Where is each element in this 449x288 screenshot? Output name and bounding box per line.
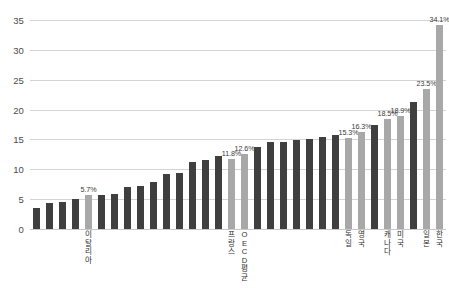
bar xyxy=(423,89,430,229)
category-label: 영국 xyxy=(357,231,366,248)
bar xyxy=(137,186,144,229)
bar xyxy=(345,138,352,229)
bar xyxy=(72,199,79,229)
y-tick-label: 0 xyxy=(19,224,24,235)
y-tick-label: 20 xyxy=(13,104,24,115)
bar xyxy=(124,187,131,229)
bar-value-label: 18.9% xyxy=(391,106,411,115)
y-tick-label: 15 xyxy=(13,134,24,145)
y-tick-label: 25 xyxy=(13,74,24,85)
y-tick-label: 5 xyxy=(19,194,24,205)
bar xyxy=(59,202,66,229)
bar xyxy=(254,147,261,229)
bar xyxy=(228,159,235,229)
category-label: 프랑스 xyxy=(227,231,236,257)
bar xyxy=(358,132,365,229)
bar-value-label: 34.1% xyxy=(430,15,449,24)
bar xyxy=(280,142,287,229)
bar-chart: 05101520253035 5.7%11.8%12.6%15.3%16.3%1… xyxy=(0,0,449,288)
bar xyxy=(306,139,313,229)
category-label: 이탈리아 xyxy=(84,231,93,265)
category-label: 독일 xyxy=(344,231,353,248)
bar xyxy=(46,203,53,229)
bar xyxy=(384,119,391,229)
bar xyxy=(189,162,196,229)
bar xyxy=(397,116,404,229)
bar xyxy=(163,174,170,229)
bar xyxy=(150,182,157,229)
bar xyxy=(33,208,40,229)
category-label: 한국 xyxy=(435,231,444,248)
bar xyxy=(332,135,339,229)
bar-value-label: 5.7% xyxy=(81,185,97,194)
category-axis: 이탈리아프랑스OECD 평균독일영국캐나다미국일본한국 xyxy=(30,231,446,288)
y-tick-label: 10 xyxy=(13,164,24,175)
bar xyxy=(319,137,326,229)
bar xyxy=(293,140,300,229)
bar xyxy=(371,125,378,229)
bar xyxy=(202,160,209,229)
bar xyxy=(98,195,105,229)
bar xyxy=(241,154,248,229)
bars-layer: 5.7%11.8%12.6%15.3%16.3%18.5%18.9%23.5%3… xyxy=(30,20,446,229)
y-axis: 05101520253035 xyxy=(0,20,30,229)
category-label: 캐나다 xyxy=(383,231,392,257)
bar xyxy=(410,102,417,229)
bar xyxy=(215,156,222,229)
bar-value-label: 12.6% xyxy=(235,144,255,153)
bar xyxy=(436,25,443,229)
y-tick-label: 35 xyxy=(13,15,24,26)
bar xyxy=(176,173,183,229)
bar-value-label: 16.3% xyxy=(352,122,372,131)
bar xyxy=(267,142,274,229)
bar xyxy=(85,195,92,229)
category-label: OECD 평균 xyxy=(240,231,249,283)
y-tick-label: 30 xyxy=(13,44,24,55)
category-label: 일본 xyxy=(422,231,431,248)
bar-value-label: 23.5% xyxy=(417,79,437,88)
bar xyxy=(111,194,118,229)
plot-area: 5.7%11.8%12.6%15.3%16.3%18.5%18.9%23.5%3… xyxy=(30,20,446,229)
category-label: 미국 xyxy=(396,231,405,248)
